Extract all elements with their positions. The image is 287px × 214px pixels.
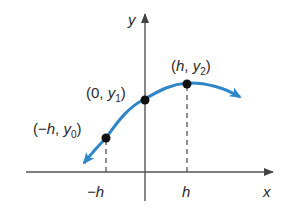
point-h-y2 xyxy=(183,80,192,89)
x-axis-label: x xyxy=(262,183,271,200)
label-point-h-y2: (h, y2) xyxy=(171,57,211,77)
diagram-canvas: y x −h h (−h, y0) (0, y1) (h, y2) xyxy=(0,0,287,214)
tick-neg-h: −h xyxy=(87,183,104,200)
label-point-neg-h-y0: (−h, y0) xyxy=(33,120,82,140)
curve-left-arrow xyxy=(84,138,106,163)
y-axis-label: y xyxy=(127,11,137,28)
point-neg-h-y0 xyxy=(102,134,111,143)
point-0-y1 xyxy=(141,96,150,105)
label-point-0-y1: (0, y1) xyxy=(86,84,126,104)
curve xyxy=(106,83,240,138)
tick-h: h xyxy=(182,183,190,200)
